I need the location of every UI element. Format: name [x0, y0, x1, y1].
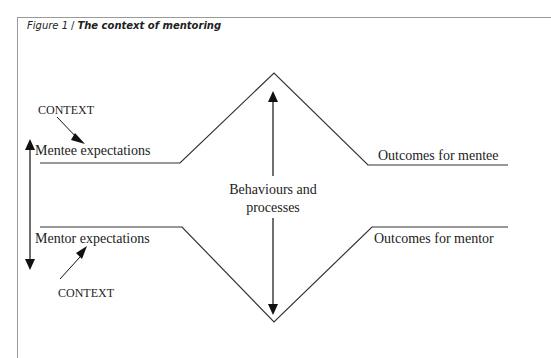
outcomes-mentor-label: Outcomes for mentor: [374, 231, 494, 246]
center-label-line1: Behaviours and: [229, 182, 316, 197]
mentor-expectations-label: Mentor expectations: [35, 231, 150, 246]
center-arrow-up-head-icon: [268, 91, 278, 102]
context-bottom-arrowhead-icon: [76, 246, 87, 259]
center-label-line2: processes: [246, 200, 300, 215]
mentee-expectations-label: Mentee expectations: [35, 143, 150, 158]
left-arrow-up-head-icon: [25, 139, 35, 150]
context-bottom-arrow: [60, 257, 80, 279]
center-arrow-down-head-icon: [268, 304, 278, 315]
outcomes-mentee-label: Outcomes for mentee: [378, 148, 499, 163]
left-arrow-down-head-icon: [25, 259, 35, 270]
context-top-label: CONTEXT: [38, 103, 95, 117]
context-bottom-label: CONTEXT: [58, 286, 115, 300]
